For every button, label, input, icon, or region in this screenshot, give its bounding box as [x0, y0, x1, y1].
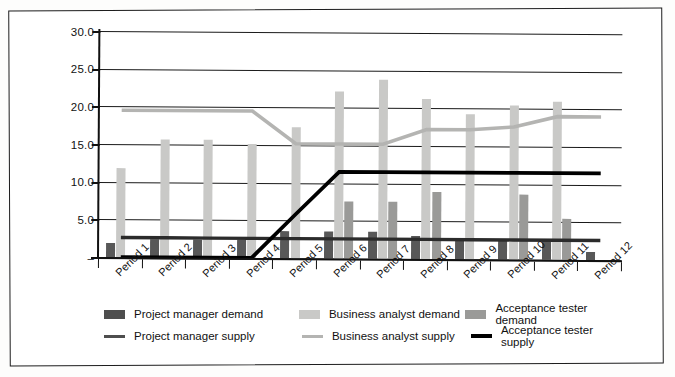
legend-label: Acceptance tester demand: [495, 302, 624, 326]
legend-line-icon: [471, 334, 492, 338]
legend-item-acceptance-tester-supply: Acceptance tester supply: [471, 327, 624, 345]
legend-swatch-icon: [299, 310, 320, 319]
legend-item-business-analyst-demand: Business analyst demand: [299, 305, 465, 323]
legend-swatch-icon: [465, 310, 486, 319]
y-tick-label: –: [52, 252, 94, 264]
y-tick-label: 25.0: [52, 63, 94, 75]
legend-label: Acceptance tester supply: [501, 324, 624, 348]
y-tick-label: 5.0: [52, 214, 94, 226]
y-axis-labels: –5.010.015.020.025.030.0: [48, 31, 94, 257]
legend-label: Business analyst supply: [332, 330, 455, 342]
legend-item-project-manager-supply: Project manager supply: [104, 327, 302, 345]
y-tick-label: 20.0: [52, 101, 94, 113]
legend-label: Business analyst demand: [329, 308, 460, 320]
legend-item-business-analyst-supply: Business analyst supply: [302, 327, 471, 345]
x-tick-mark: [98, 259, 99, 268]
chart-legend: Project manager demand Business analyst …: [104, 305, 624, 347]
x-tick-mark: [142, 259, 143, 268]
legend-item-acceptance-tester-demand: Acceptance tester demand: [465, 305, 624, 323]
legend-swatch-icon: [104, 310, 125, 319]
y-tick-label: 10.0: [52, 176, 94, 188]
legend-line-icon: [302, 335, 323, 338]
legend-row-demand: Project manager demand Business analyst …: [104, 305, 624, 323]
legend-row-supply: Project manager supply Business analyst …: [104, 327, 624, 345]
line-series: [121, 238, 600, 241]
chart-figure: –5.010.015.020.025.030.0 Period 1Period …: [0, 0, 675, 377]
legend-label: Project manager demand: [134, 308, 263, 320]
line-series: [121, 110, 601, 145]
line-series-layer: [98, 31, 622, 260]
y-tick-label: 30.0: [52, 26, 94, 38]
legend-item-project-manager-demand: Project manager demand: [104, 305, 299, 323]
legend-label: Project manager supply: [134, 330, 255, 342]
y-tick-label: 15.0: [52, 139, 94, 151]
legend-line-icon: [104, 335, 125, 338]
